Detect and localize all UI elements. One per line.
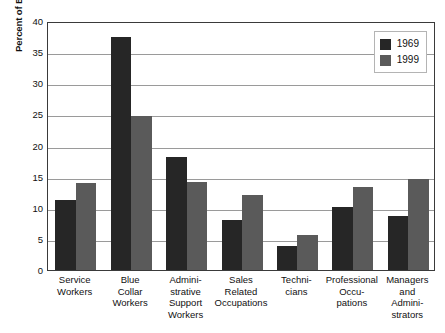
bar xyxy=(222,220,243,270)
bar xyxy=(111,37,132,270)
bar xyxy=(187,182,208,270)
y-axis-tick-label: 0 xyxy=(38,266,43,276)
y-axis-tick-label: 20 xyxy=(32,142,43,152)
bar xyxy=(408,179,429,270)
x-axis-category-label: Sales Related Occupations xyxy=(213,274,268,309)
legend-item-label: 1999 xyxy=(397,55,419,65)
legend-item-label: 1969 xyxy=(397,39,419,49)
x-axis-category-labels: Service WorkersBlue Collar WorkersAdmini… xyxy=(47,274,435,332)
x-axis-category-label: Professional Occu- pations xyxy=(324,274,379,309)
y-axis-tick-label: 25 xyxy=(32,111,43,121)
bar xyxy=(166,157,187,270)
y-axis-tick-labels: 0510152025303540 xyxy=(22,22,46,271)
legend-swatch-icon xyxy=(380,55,391,66)
legend: 19691999 xyxy=(374,31,427,73)
y-axis-tick-label: 10 xyxy=(32,204,43,214)
y-axis-tick-label: 35 xyxy=(32,48,43,58)
x-axis-category-label: Service Workers xyxy=(47,274,102,297)
bar xyxy=(55,200,76,270)
legend-item: 1969 xyxy=(380,36,419,52)
bar xyxy=(388,216,409,270)
y-axis-tick-label: 30 xyxy=(32,80,43,90)
x-axis-category-label: Blue Collar Workers xyxy=(102,274,157,309)
bar xyxy=(332,207,353,270)
x-axis-category-label: Managers and Admini- strators xyxy=(380,274,435,320)
bar xyxy=(242,195,263,270)
legend-item: 1999 xyxy=(380,52,419,68)
y-axis-tick-label: 40 xyxy=(32,17,43,27)
chart-page: Percent of Employed Adults 0510152025303… xyxy=(0,0,445,333)
bar xyxy=(277,246,298,270)
bar xyxy=(131,116,152,270)
plot-area: 19691999 xyxy=(47,22,435,271)
bar xyxy=(353,187,374,270)
x-axis-category-label: Techni- cians xyxy=(269,274,324,297)
y-axis-tick-label: 15 xyxy=(32,173,43,183)
x-axis-category-label: Admini- strative Support Workers xyxy=(158,274,213,320)
bar xyxy=(76,183,97,270)
y-axis-tick-label: 5 xyxy=(38,235,43,245)
legend-swatch-icon xyxy=(380,39,391,50)
bar xyxy=(297,235,318,270)
